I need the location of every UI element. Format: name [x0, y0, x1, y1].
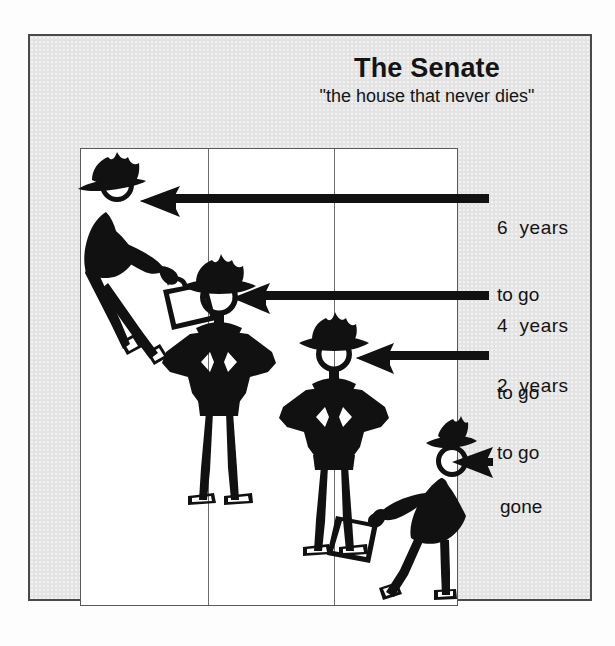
callout-six-years-line1: 6 years [497, 217, 569, 239]
callout-gone-line1: gone [500, 496, 542, 518]
title-block: The Senate "the house that never dies" [262, 54, 592, 107]
illustration-canvas: The Senate "the house that never dies" 6… [0, 0, 615, 646]
callout-gone: gone [500, 451, 542, 563]
page-subtitle: "the house that never dies" [262, 87, 592, 107]
senate-chamber-grid [80, 148, 458, 606]
page-title: The Senate [262, 54, 592, 82]
callout-two-years-line1: 2 years [497, 375, 569, 397]
grid-divider-1 [208, 149, 209, 605]
grid-divider-2 [334, 149, 335, 605]
